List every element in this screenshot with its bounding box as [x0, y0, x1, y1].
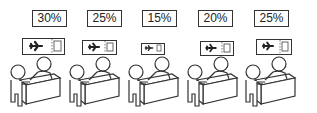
check-in-counter-scene: [0, 0, 317, 113]
